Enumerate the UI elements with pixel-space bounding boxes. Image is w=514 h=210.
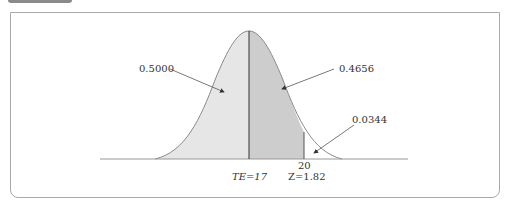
region-mean-to-20 (249, 31, 304, 159)
arrow-middle (282, 69, 334, 89)
arrow-tail (314, 125, 354, 153)
label-z: Z=1.82 (288, 171, 326, 182)
label-tail-area: 0.0344 (352, 114, 387, 125)
label-te: TE=17 (232, 171, 268, 182)
label-x-tick-20: 20 (298, 160, 311, 171)
region-left-half (155, 31, 249, 159)
label-middle-area: 0.4656 (339, 63, 374, 74)
normal-curve-chart: 0.5000 0.4656 0.0344 20 TE=17 Z=1.82 (0, 0, 514, 210)
label-left-area: 0.5000 (139, 63, 174, 74)
